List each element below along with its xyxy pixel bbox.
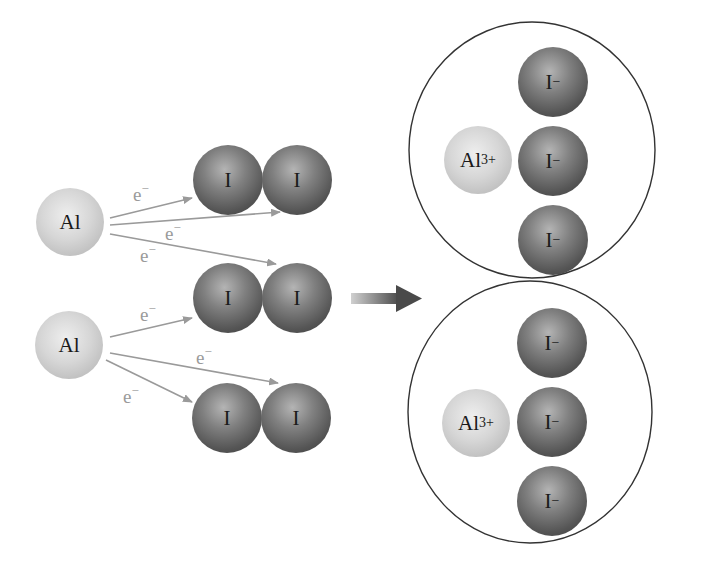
iodine-atom: I <box>193 263 263 333</box>
atom-label: I <box>294 286 301 311</box>
atom-label: I <box>293 406 300 431</box>
iodide-ion: I− <box>518 205 588 275</box>
aluminum-atom: Al <box>35 311 103 379</box>
iodide-ion: I− <box>517 387 587 457</box>
atom-label: Al <box>59 333 80 358</box>
iodide-ion: I− <box>518 47 588 117</box>
diagram-stage: Al Al I I I I I I e− e− e− e− e− e− <box>0 0 713 576</box>
atom-label: Al <box>60 210 81 235</box>
atom-label: I <box>294 168 301 193</box>
iodine-atom: I <box>261 383 331 453</box>
electron-arrow <box>110 212 280 225</box>
electron-label: e− <box>140 246 156 265</box>
aluminum-atom: Al <box>36 188 104 256</box>
electron-label: e− <box>140 305 156 324</box>
iodine-atom: I <box>192 383 262 453</box>
electron-arrow <box>110 234 276 264</box>
reaction-arrow-icon <box>351 285 422 312</box>
iodine-atom: I <box>193 145 263 215</box>
iodide-ion: I− <box>517 308 587 378</box>
iodine-atom: I <box>262 145 332 215</box>
electron-label: e− <box>123 387 139 406</box>
electron-arrow <box>106 360 192 402</box>
atom-label: I <box>225 168 232 193</box>
electron-label: e− <box>133 185 149 204</box>
electron-label: e− <box>165 224 181 243</box>
connector-layer <box>0 0 713 576</box>
aluminum-ion: Al3+ <box>444 126 512 194</box>
iodine-atom: I <box>262 263 332 333</box>
electron-label: e− <box>196 348 212 367</box>
electron-arrow <box>110 198 192 218</box>
atom-label: I <box>225 286 232 311</box>
atom-label: I <box>224 406 231 431</box>
iodide-ion: I− <box>517 466 587 536</box>
electron-arrow <box>110 353 278 383</box>
aluminum-ion: Al3+ <box>442 389 510 457</box>
iodide-ion: I− <box>518 126 588 196</box>
